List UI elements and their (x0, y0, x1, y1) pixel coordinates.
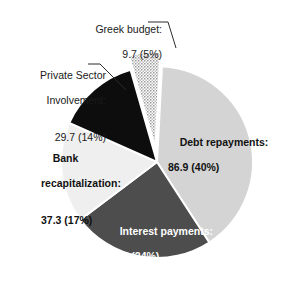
slice-label-interest-line1: Interest payments: (120, 225, 213, 237)
slice-label-debt-repayments: Debt repayments: 86.9 (40%) (168, 124, 286, 198)
slice-label-greek-budget-line1: Greek budget: (95, 23, 162, 35)
leader-line-greek-diagonal (168, 22, 176, 48)
slice-label-interest-line2: 52.3 (24%) (108, 250, 230, 262)
slice-label-psi-line2: Involvement: (2, 94, 106, 106)
pie-chart-figure: Greek budget: 9.7 (5%) Private Sector In… (0, 0, 291, 290)
slice-label-interest-payments: Interest payments: 52.3 (24%) (108, 213, 230, 287)
slice-label-bank-line2: recapitalization: (41, 177, 151, 189)
slice-label-psi-line1: Private Sector (40, 69, 106, 81)
slice-label-bank-line1: Bank (53, 152, 79, 164)
slice-label-debt-line2: 86.9 (40%) (168, 161, 286, 173)
slice-label-debt-line1: Debt repayments: (180, 136, 269, 148)
